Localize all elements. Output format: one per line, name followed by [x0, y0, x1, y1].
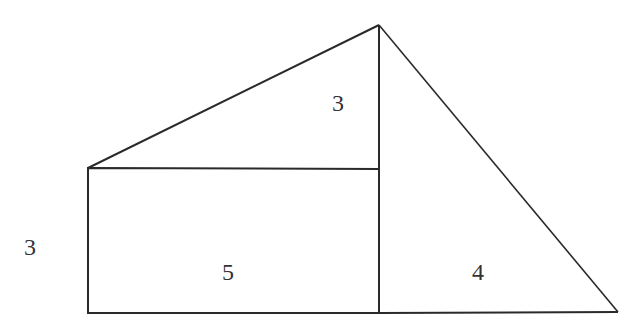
right-triangle-hypotenuse: [379, 25, 618, 312]
right-triangle-base: [379, 312, 618, 313]
label-rect-height: 3: [24, 234, 36, 260]
label-top-triangle-height: 3: [332, 90, 344, 116]
label-rect-width: 5: [222, 259, 234, 285]
label-right-triangle-base: 4: [472, 259, 484, 285]
rectangle-shape: [88, 168, 379, 313]
composite-figure-diagram: 3 3 5 4: [0, 0, 644, 331]
